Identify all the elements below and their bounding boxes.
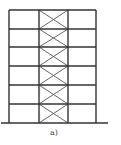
braced-frame-diagram <box>0 0 121 145</box>
figure-caption: a) <box>0 128 108 137</box>
